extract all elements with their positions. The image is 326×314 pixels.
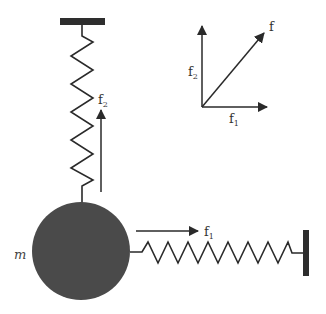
vertical-spring (71, 25, 93, 203)
horizontal-spring (130, 242, 303, 263)
vector-f-resultant-arrow (202, 33, 264, 107)
vector-f2-label: f2 (188, 64, 198, 81)
vector-f1-label: f1 (229, 111, 239, 128)
vector-diagram: f f2 f1 (188, 19, 275, 128)
vector-f-label: f (269, 19, 275, 34)
mass (32, 202, 130, 300)
force-f2-label: f2 (98, 92, 108, 109)
wall-support (303, 230, 309, 276)
ceiling-support (60, 18, 105, 25)
spring-mass-diagram: f2 m f1 f f2 f1 (0, 0, 326, 314)
force-f1-label: f1 (204, 224, 214, 241)
mass-label: m (14, 247, 26, 262)
